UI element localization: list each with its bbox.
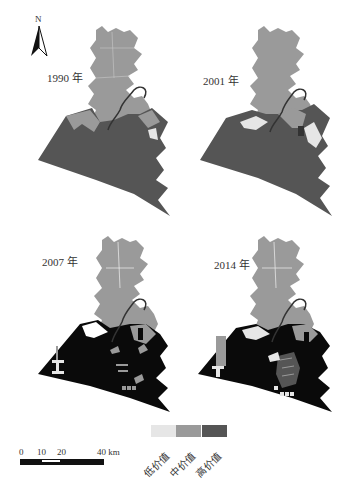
scale-tick-20: 20 xyxy=(57,447,66,457)
scale-tick-40km: 40 km xyxy=(97,447,120,457)
legend-label-low: 低价值 xyxy=(140,449,172,481)
legend-label-high: 高价值 xyxy=(192,449,224,481)
map-2007 xyxy=(30,228,180,413)
scale-tick-0: 0 xyxy=(19,447,24,457)
legend-swatch-medium xyxy=(176,425,201,437)
legend-swatch-high xyxy=(202,425,227,437)
scale-tick-10: 10 xyxy=(37,447,46,457)
map-2014 xyxy=(196,228,346,413)
scale-bar-segment xyxy=(42,460,60,462)
map-1990 xyxy=(30,18,180,218)
scale-bar-graphic xyxy=(20,459,104,465)
legend-swatch-low xyxy=(151,425,176,437)
map-2001 xyxy=(196,18,346,218)
legend-label-medium: 中价值 xyxy=(166,449,198,481)
